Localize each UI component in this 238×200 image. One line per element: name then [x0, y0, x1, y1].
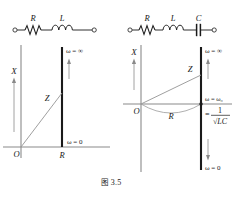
omega-infinity-arrow [206, 59, 210, 80]
series-rlc-circuit [128, 24, 216, 36]
resistor-label: R [29, 13, 36, 23]
impedance-vector-label: Z [188, 64, 193, 74]
omega-zero-label: ω = 0 [205, 164, 221, 172]
terminal-left-circle-icon [13, 28, 17, 32]
origin-label: O [134, 106, 140, 116]
resistor-icon [25, 26, 41, 35]
reactance-axis-label: X [130, 47, 137, 57]
series-rl-circuit [13, 25, 96, 34]
reactance-axis-label: X [10, 66, 17, 76]
figure-caption-prefix: 图 [101, 178, 108, 187]
arc-label: R [167, 111, 174, 121]
reactance-direction-arrow [12, 78, 16, 133]
impedance-vector-label: Z [45, 93, 50, 103]
terminal-left-circle-icon [128, 28, 132, 32]
locus-foot-label: R [58, 150, 65, 160]
terminal-right-circle-icon [212, 28, 216, 32]
omega-infinity-label: ω = ∞ [205, 47, 222, 55]
right-panel: R L C X [123, 13, 232, 173]
terminal-right-circle-icon [92, 28, 96, 32]
impedance-vector [141, 75, 201, 104]
figure-caption: 图 3.5 [101, 176, 122, 187]
resistor-icon [139, 26, 155, 35]
capacitor-icon [197, 24, 201, 36]
figure-3-5: R L X ω = ∞ ω = 0 [0, 0, 238, 200]
origin-label: O [14, 149, 20, 159]
omega-zero-arrow [206, 139, 210, 161]
omega-infinity-label: ω = ∞ [66, 47, 83, 55]
capacitor-label: C [196, 13, 202, 23]
impedance-vector [21, 93, 62, 147]
omega-infinity-arrow [67, 59, 71, 80]
resonance-point-marker [199, 102, 202, 105]
right-plot: X ω = ∞ ω = 0 ω = ω₀ = 1 √LC Z [123, 45, 232, 172]
figure-caption-number: 3.5 [111, 178, 122, 187]
inductor-label: L [59, 13, 65, 23]
formula-denominator: √LC [213, 117, 228, 126]
inductor-label: L [170, 13, 176, 23]
inductor-icon [52, 25, 72, 30]
omega-resonance-formula: = 1 √LC [205, 106, 230, 126]
resistor-label: R [143, 13, 150, 23]
inductor-icon [163, 25, 183, 30]
omega-zero-label: ω = 0 [67, 138, 83, 146]
left-panel: R L X ω = ∞ ω = 0 [3, 13, 110, 161]
omega-resonance-label: ω = ω₀ [205, 95, 223, 102]
left-plot: X ω = ∞ ω = 0 Z O R [3, 45, 110, 160]
formula-numerator: 1 [218, 106, 222, 115]
reactance-direction-arrow [132, 59, 136, 91]
equals-sign: = [205, 110, 210, 119]
